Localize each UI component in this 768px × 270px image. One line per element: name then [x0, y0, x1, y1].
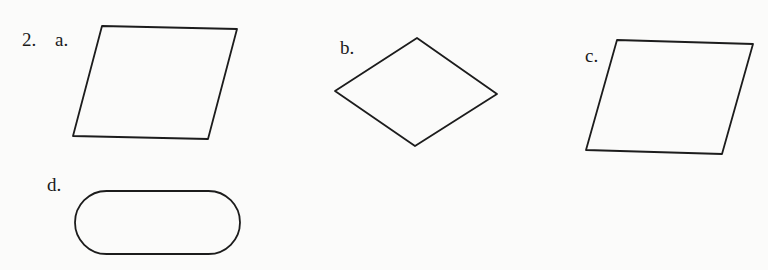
shape-d-stadium [75, 191, 240, 254]
shape-c-parallelogram [586, 40, 753, 154]
shapes-canvas [0, 0, 768, 270]
shape-b-rhombus [335, 38, 497, 146]
shape-a-parallelogram [73, 26, 237, 139]
